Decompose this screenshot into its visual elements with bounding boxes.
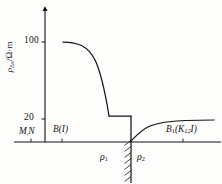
region-label-rho2-subscript: 2 [142, 155, 145, 162]
region-label-rho1-subscript: 1 [105, 155, 108, 162]
region-label-rho1: ρ1 [100, 152, 108, 163]
x-label-b-paren: (I) [59, 124, 68, 134]
x-label-b1: B1(K12I) [166, 125, 197, 135]
x-label-mn-n: N [28, 126, 34, 136]
y-tick-label-20: 20 [24, 113, 34, 123]
curve-left-branch [63, 42, 109, 116]
resistivity-figure: ρΔs/Ω·m 100 20 M,N B(I) B1(K12I) ρ1 ρ2 [0, 0, 222, 184]
y-axis-label-unit: /Ω·m [4, 42, 14, 62]
contact-boundary-hatching [125, 140, 132, 183]
x-label-b1-tail: I) [191, 124, 197, 134]
y-tick-label-100: 100 [24, 36, 39, 46]
x-label-b: B(I) [53, 125, 68, 134]
x-label-b1-k: (K [175, 124, 184, 134]
y-axis-label-rho: ρ [4, 68, 14, 72]
region-label-rho2: ρ2 [137, 152, 145, 163]
y-axis-label-subscript: Δs [8, 61, 15, 68]
plot-canvas [0, 0, 222, 184]
x-label-mn: M,N [19, 127, 35, 137]
x-label-mn-m: M [19, 126, 27, 136]
y-axis-label: ρΔs/Ω·m [5, 25, 15, 89]
